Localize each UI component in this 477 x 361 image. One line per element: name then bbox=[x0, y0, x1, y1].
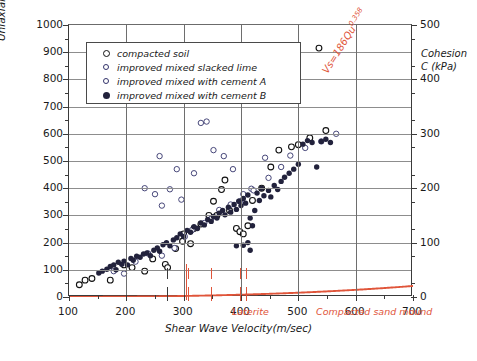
y-axis-tick-label: 0 bbox=[17, 291, 63, 302]
data-point bbox=[268, 164, 274, 170]
x-axis-minor-tick bbox=[327, 295, 328, 299]
legend-item: improved mixed with cement B bbox=[95, 88, 300, 102]
data-point bbox=[162, 261, 168, 267]
data-point bbox=[155, 245, 160, 250]
data-point bbox=[227, 208, 233, 214]
y-axis-minor-tick bbox=[65, 229, 69, 230]
secondary-y-axis-minor-tick bbox=[411, 256, 415, 257]
legend-item: improved mixed slacked lime bbox=[95, 60, 300, 74]
y-axis-tick-label: 600 bbox=[17, 128, 63, 139]
data-point bbox=[309, 140, 314, 145]
secondary-y-axis-tick bbox=[411, 243, 417, 244]
annotation-tick bbox=[188, 268, 189, 279]
y-axis-minor-tick bbox=[65, 120, 69, 121]
y-axis-tick bbox=[63, 188, 69, 189]
x-axis-tick bbox=[241, 295, 242, 301]
data-point bbox=[107, 277, 113, 283]
x-axis-tick bbox=[298, 295, 299, 301]
data-point bbox=[211, 147, 216, 152]
data-point bbox=[189, 228, 194, 233]
data-point bbox=[152, 191, 157, 196]
y-axis-tick-label: 800 bbox=[17, 73, 63, 84]
data-point bbox=[282, 175, 287, 180]
annotation-label: Compacted sand mound bbox=[316, 306, 432, 317]
data-point bbox=[174, 166, 179, 171]
data-point bbox=[96, 270, 101, 275]
data-point bbox=[250, 198, 256, 204]
y-axis-tick-label: 500 bbox=[17, 155, 63, 166]
data-point bbox=[191, 171, 196, 176]
data-point bbox=[217, 207, 222, 212]
x-axis-tick-label: 200 bbox=[102, 306, 148, 317]
x-axis-tick bbox=[413, 295, 414, 301]
data-point bbox=[276, 147, 282, 153]
secondary-y-axis-tick bbox=[411, 188, 417, 189]
legend-symbol-cement-a bbox=[95, 78, 117, 85]
y-axis-tick bbox=[63, 215, 69, 216]
x-axis-minor-tick bbox=[155, 295, 156, 299]
data-point bbox=[131, 258, 136, 263]
y-axis-minor-tick bbox=[65, 66, 69, 67]
x-axis-tick-label: 300 bbox=[160, 306, 206, 317]
secondary-y-axis-tick-label: 100 bbox=[420, 237, 466, 248]
legend-label: compacted soil bbox=[117, 48, 189, 59]
y-axis-tick-label: 700 bbox=[17, 101, 63, 112]
data-point bbox=[111, 262, 116, 267]
secondary-y-axis-minor-tick bbox=[411, 229, 415, 230]
annotation-label: Laterite bbox=[232, 306, 269, 317]
data-point bbox=[116, 259, 121, 264]
secondary-y-axis-minor-tick bbox=[411, 66, 415, 67]
data-point bbox=[257, 198, 262, 203]
annotation-tick bbox=[211, 268, 212, 279]
gridline-horizontal bbox=[69, 134, 411, 135]
data-point bbox=[228, 209, 233, 214]
y-axis-tick-label: 300 bbox=[17, 209, 63, 220]
data-point bbox=[303, 145, 308, 150]
secondary-y-axis-tick-label: 200 bbox=[420, 182, 466, 193]
y-axis-tick bbox=[63, 79, 69, 80]
data-point bbox=[204, 119, 209, 124]
data-point bbox=[89, 276, 95, 282]
data-point bbox=[305, 138, 310, 143]
y-axis-minor-tick bbox=[65, 202, 69, 203]
annotation-tick bbox=[167, 268, 168, 279]
secondary-y-axis-minor-tick bbox=[411, 175, 415, 176]
data-point bbox=[159, 203, 164, 208]
data-point bbox=[198, 220, 203, 225]
secondary-y-axis-tick-label: 400 bbox=[420, 73, 466, 84]
y-axis-tick bbox=[63, 161, 69, 162]
secondary-y-axis-tick bbox=[411, 297, 417, 298]
x-axis-tick-label: 500 bbox=[274, 306, 320, 317]
data-point bbox=[76, 282, 82, 288]
gridline-horizontal bbox=[69, 188, 411, 189]
data-point bbox=[172, 245, 177, 250]
data-point bbox=[205, 217, 210, 222]
data-point bbox=[266, 175, 271, 180]
legend: compacted soil improved mixed slacked li… bbox=[86, 42, 301, 104]
legend-symbol-compacted-soil bbox=[95, 50, 117, 57]
gridline-horizontal bbox=[69, 107, 411, 108]
x-axis-minor-tick bbox=[270, 295, 271, 299]
gridline-horizontal bbox=[69, 215, 411, 216]
data-point bbox=[220, 208, 225, 213]
data-point bbox=[159, 253, 164, 258]
x-axis-minor-tick bbox=[384, 295, 385, 299]
annotation-tick bbox=[246, 287, 247, 301]
y-axis-tick-label: 200 bbox=[17, 237, 63, 248]
data-point bbox=[157, 153, 162, 158]
data-point bbox=[243, 200, 248, 205]
data-point bbox=[134, 254, 139, 259]
y-axis-tick-label: 400 bbox=[17, 182, 63, 193]
data-point bbox=[141, 251, 146, 256]
y-axis-tick bbox=[63, 243, 69, 244]
data-point bbox=[234, 226, 240, 232]
data-point bbox=[288, 153, 293, 158]
annotation-tick bbox=[240, 268, 241, 279]
data-point bbox=[195, 226, 200, 231]
data-point bbox=[234, 243, 239, 248]
data-point bbox=[145, 251, 150, 256]
series-2 bbox=[111, 131, 339, 276]
data-point bbox=[230, 166, 235, 171]
data-point bbox=[137, 255, 142, 260]
data-point bbox=[184, 228, 189, 233]
